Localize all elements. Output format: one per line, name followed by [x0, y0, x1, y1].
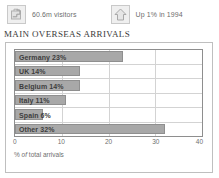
bar-row: Spain 6% — [15, 108, 202, 123]
x-axis: 010203040 — [14, 138, 203, 149]
header-stats-bar: 60.6m visitors Up 1% in 1994 — [0, 0, 219, 28]
up-arrow-icon — [111, 5, 130, 24]
stat-growth: Up 1% in 1994 — [111, 5, 183, 24]
caption-prefix: % — [14, 151, 22, 158]
bar-row: Other 32% — [15, 123, 202, 137]
x-tick-label: 40 — [196, 138, 203, 145]
x-tick-label: 0 — [13, 138, 17, 145]
bar-row: Italy 11% — [15, 94, 202, 109]
x-tick-label: 20 — [105, 138, 112, 145]
bar-label: UK 14% — [19, 68, 46, 75]
x-tick-label: 30 — [152, 138, 159, 145]
bar-row: UK 14% — [15, 65, 202, 80]
x-tick-label: 10 — [58, 138, 65, 145]
chart-frame: Germany 23%UK 14%Belgium 14%Italy 11%Spa… — [5, 42, 213, 173]
bar-label: Spain 6% — [19, 111, 51, 118]
stat-growth-label: Up 1% in 1994 — [136, 11, 183, 18]
bar-row: Belgium 14% — [15, 79, 202, 94]
bar-label: Germany 23% — [19, 53, 66, 60]
stat-visitors-label: 60.6m visitors — [32, 11, 77, 18]
bar-label: Other 32% — [19, 126, 55, 133]
chart-title: MAIN OVERSEAS ARRIVALS — [0, 29, 219, 39]
bar-label: Belgium 14% — [19, 82, 64, 89]
suitcase-icon — [7, 5, 26, 24]
stat-visitors: 60.6m visitors — [7, 5, 77, 24]
bar-label: Italy 11% — [19, 97, 49, 104]
bar-series: Germany 23%UK 14%Belgium 14%Italy 11%Spa… — [15, 50, 202, 136]
x-axis-caption: % of total arrivals — [14, 151, 203, 158]
bar-row: Germany 23% — [15, 50, 202, 65]
caption-suffix: total arrivals — [27, 151, 64, 158]
plot-area: Germany 23%UK 14%Belgium 14%Italy 11%Spa… — [14, 49, 203, 137]
